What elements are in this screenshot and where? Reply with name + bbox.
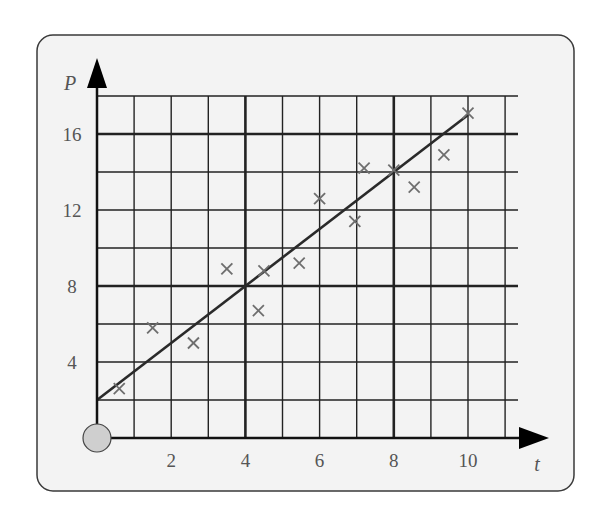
chart-svg: 246810 481216 P t bbox=[0, 0, 602, 518]
chart-figure: 246810 481216 P t bbox=[0, 0, 602, 518]
y-tick-label: 16 bbox=[63, 124, 82, 145]
y-axis-label: P bbox=[63, 72, 76, 94]
x-tick-label: 8 bbox=[389, 450, 399, 471]
y-tick-label: 8 bbox=[67, 276, 77, 297]
x-axis-label: t bbox=[534, 453, 540, 475]
chart-panel bbox=[37, 35, 574, 491]
x-tick-label: 2 bbox=[166, 450, 176, 471]
x-tick-label: 4 bbox=[241, 450, 251, 471]
y-tick-label: 4 bbox=[67, 352, 77, 373]
x-tick-label: 6 bbox=[315, 450, 325, 471]
x-tick-label: 10 bbox=[459, 450, 478, 471]
y-tick-label: 12 bbox=[63, 200, 82, 221]
origin-circle-icon bbox=[83, 424, 111, 452]
